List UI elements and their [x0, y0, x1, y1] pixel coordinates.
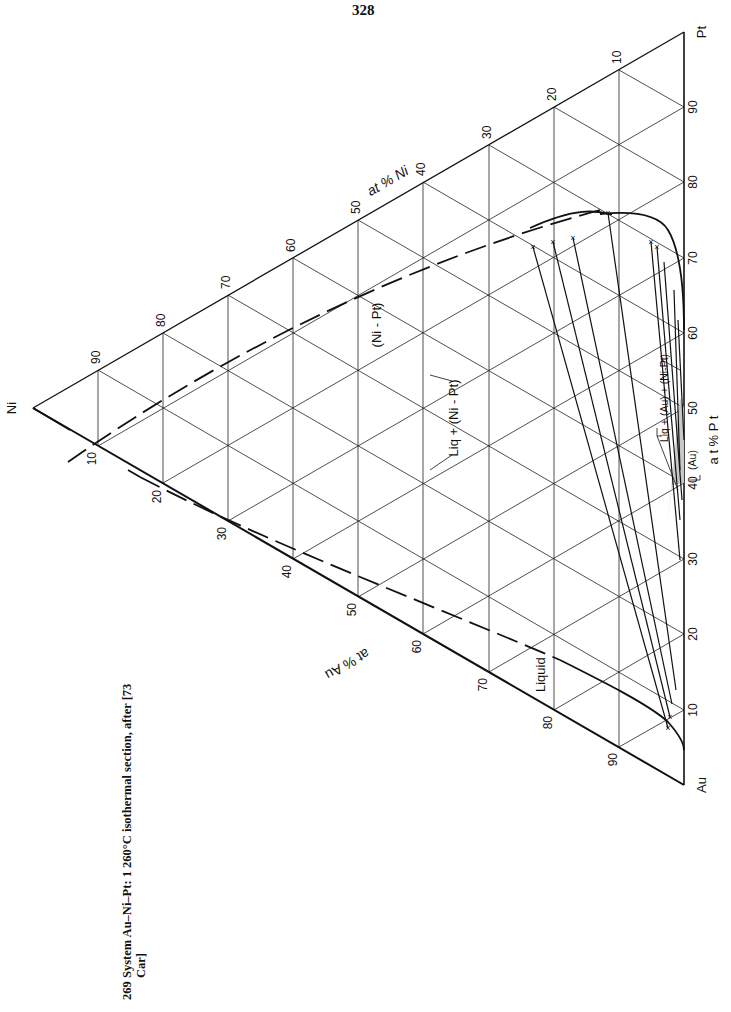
svg-text:50: 50: [345, 603, 359, 617]
tie-line-markers: × × × × × × × ×: [530, 208, 672, 733]
svg-text:40: 40: [280, 565, 294, 579]
region-label-liquid: Liquid: [533, 657, 548, 692]
caption-line-1: System Au–Ni–Pt: 1 260°C isothermal sect…: [120, 684, 134, 978]
svg-text:20: 20: [686, 627, 700, 641]
vertex-label-ni: Ni: [4, 402, 19, 414]
region-label-liq-ni-pt: Liq + (Ni - Pt): [446, 380, 461, 457]
pt-axis-ticks: 10 20 30 40 50 60 70 80 90: [686, 100, 700, 717]
svg-text:40: 40: [686, 476, 700, 490]
ternary-diagram: × × × × × × × × Ni Pt Au 10 20 30 40 50 …: [0, 0, 731, 1012]
svg-text:70: 70: [476, 678, 490, 692]
svg-text:30: 30: [686, 552, 700, 566]
tie-lines: [533, 213, 684, 728]
figure-caption: 269System Au–Ni–Pt: 1 260°C isothermal s…: [120, 684, 148, 1000]
region-label-three-phase: Liq + (Au) + (Ni-Pt): [658, 354, 670, 442]
svg-text:×: ×: [665, 723, 670, 733]
svg-text:60: 60: [686, 326, 700, 340]
svg-text:×: ×: [667, 712, 672, 722]
svg-text:×: ×: [648, 237, 653, 247]
svg-text:30: 30: [480, 125, 494, 139]
svg-text:×: ×: [654, 242, 659, 252]
svg-text:90: 90: [89, 350, 103, 364]
svg-text:20: 20: [150, 490, 164, 504]
svg-text:70: 70: [219, 275, 233, 289]
ni-axis-ticks: 10 20 30 40 50 60 70 80 90: [89, 50, 624, 364]
svg-text:70: 70: [686, 251, 700, 265]
svg-text:30: 30: [215, 527, 229, 541]
svg-text:80: 80: [541, 716, 555, 730]
svg-text:80: 80: [154, 313, 168, 327]
svg-text:×: ×: [550, 237, 555, 247]
triangle-frame: [33, 32, 684, 785]
vertex-label-au: Au: [694, 777, 709, 793]
svg-text:40: 40: [414, 162, 428, 176]
svg-text:50: 50: [349, 200, 363, 214]
svg-text:50: 50: [686, 401, 700, 415]
region-label-ni-pt: (Ni - Pt): [369, 303, 384, 348]
svg-text:90: 90: [686, 100, 700, 114]
svg-text:×: ×: [605, 208, 610, 218]
pt-axis-label: a t % P t: [706, 415, 721, 464]
au-axis-ticks: 10 20 30 40 50 60 70 80 90: [85, 452, 620, 767]
svg-text:10: 10: [686, 703, 700, 717]
svg-text:×: ×: [530, 242, 535, 252]
au-axis-label: at % Au: [323, 645, 373, 683]
svg-text:60: 60: [410, 640, 424, 654]
region-label-au: (Au): [686, 450, 698, 470]
svg-text:90: 90: [606, 753, 620, 767]
svg-text:80: 80: [686, 175, 700, 189]
figure-number: 269: [120, 978, 134, 1000]
svg-text:10: 10: [610, 50, 624, 64]
svg-text:60: 60: [284, 238, 298, 252]
svg-text:×: ×: [570, 233, 575, 243]
svg-text:20: 20: [545, 87, 559, 101]
vertex-label-pt: Pt: [694, 25, 709, 38]
svg-text:10: 10: [85, 452, 99, 466]
caption-line-2: Car]: [134, 684, 148, 1000]
vertex-labels: Ni Pt Au: [4, 25, 709, 792]
